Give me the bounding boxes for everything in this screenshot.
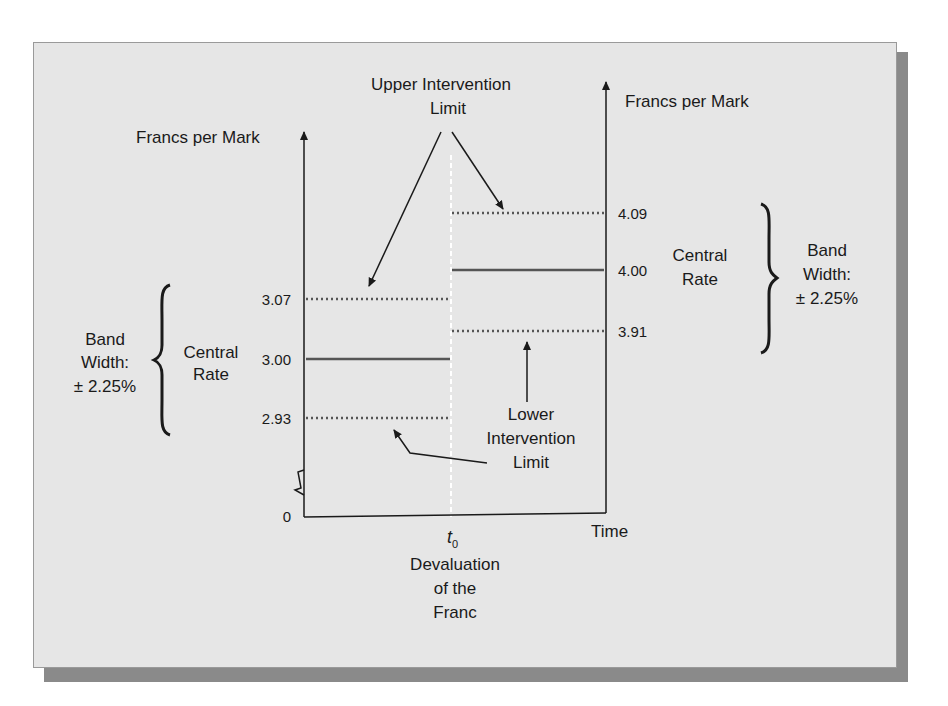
- left-band-label-3: ± 2.25%: [74, 377, 136, 396]
- left-band-brace-icon: [154, 285, 170, 435]
- right-axis-title: Francs per Mark: [625, 92, 749, 111]
- right-band-label-3: ± 2.25%: [796, 289, 858, 308]
- upper-intervention-label-2: Limit: [430, 99, 466, 118]
- devaluation-label-2: of the: [434, 579, 477, 598]
- left-central-label-1: Central: [184, 343, 239, 362]
- exchange-rate-band-diagram: Francs per Mark Francs per Mark 3.07 3.0…: [0, 0, 948, 706]
- right-lower-value: 3.91: [618, 323, 647, 340]
- upper-limit-arrow-left-icon: [369, 132, 441, 286]
- lower-intervention-label-3: Limit: [513, 453, 549, 472]
- time-axis-label: Time: [591, 522, 628, 541]
- right-band-brace-icon: [761, 204, 777, 353]
- left-band-label-1: Band: [85, 330, 125, 349]
- devaluation-label-1: Devaluation: [410, 555, 500, 574]
- left-axis-title: Francs per Mark: [136, 128, 260, 147]
- upper-intervention-label-1: Upper Intervention: [371, 75, 511, 94]
- left-lower-value: 2.93: [262, 410, 291, 427]
- origin-value: 0: [283, 508, 291, 525]
- lower-intervention-label-2: Intervention: [487, 429, 576, 448]
- left-central-value: 3.00: [262, 351, 291, 368]
- right-central-label-2: Rate: [682, 270, 718, 289]
- devaluation-label-3: Franc: [433, 603, 477, 622]
- upper-limit-arrow-right-icon: [452, 132, 503, 209]
- lower-limit-arrow-left-icon: [394, 430, 487, 463]
- right-band-label-1: Band: [807, 241, 847, 260]
- x-axis: [304, 513, 606, 517]
- t0-label: t0: [447, 527, 458, 550]
- left-central-label-2: Rate: [193, 365, 229, 384]
- left-band-label-2: Width:: [81, 353, 129, 372]
- right-central-value: 4.00: [618, 262, 647, 279]
- right-upper-value: 4.09: [618, 205, 647, 222]
- left-upper-value: 3.07: [262, 291, 291, 308]
- right-central-label-1: Central: [673, 246, 728, 265]
- lower-intervention-label-1: Lower: [508, 405, 555, 424]
- axis-break-icon: [295, 470, 304, 495]
- right-band-label-2: Width:: [803, 265, 851, 284]
